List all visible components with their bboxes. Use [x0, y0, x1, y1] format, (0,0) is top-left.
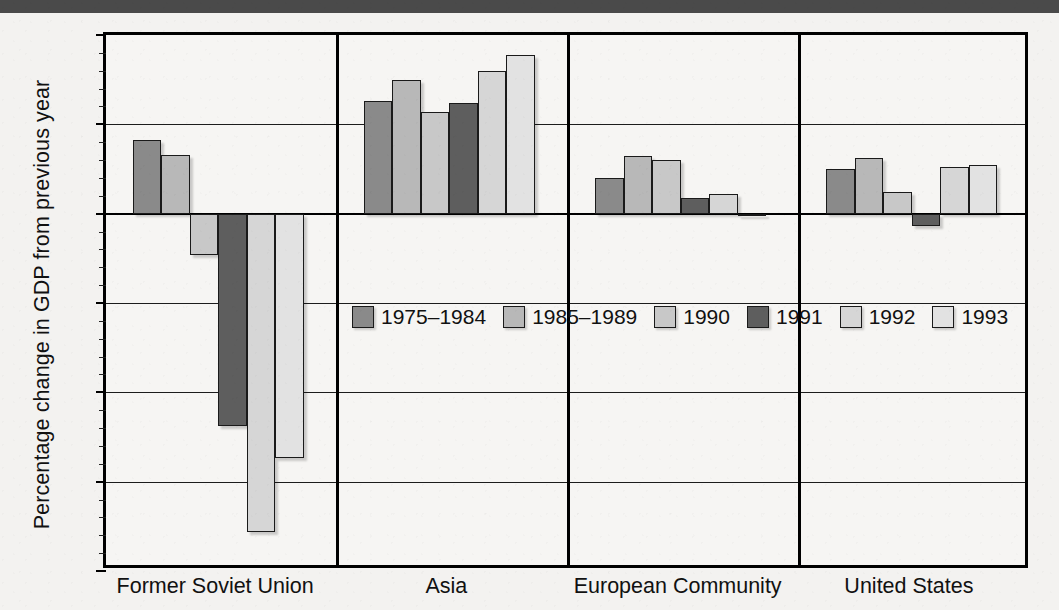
- scan-top-band: [0, 0, 1059, 13]
- y-tick-minor--7: [99, 339, 106, 340]
- legend-item[interactable]: 1991: [747, 305, 823, 329]
- bar: [709, 194, 738, 214]
- group-separator-3: [798, 35, 801, 565]
- bar: [940, 167, 969, 213]
- y-axis-label: Percentage change in GDP from previous y…: [30, 25, 55, 585]
- y-tick-minor-1: [99, 196, 106, 197]
- bar: [161, 155, 190, 214]
- group-separator-2: [567, 35, 570, 565]
- bar: [883, 192, 912, 213]
- y-tick-minor-3: [99, 160, 106, 161]
- y-tick-minor-2: [99, 178, 106, 179]
- y-tick-minor--2: [99, 249, 106, 250]
- y-tick-minor--4: [99, 285, 106, 286]
- legend-label: 1975–1984: [381, 305, 486, 329]
- y-tick-minor-7: [99, 89, 106, 90]
- group-separator-1: [336, 35, 339, 565]
- chart-legend: 1975–19841985–19891990199119921993: [352, 305, 1025, 329]
- x-category-label: Asia: [425, 574, 467, 599]
- legend-label: 1990: [683, 305, 730, 329]
- bar: [681, 198, 710, 213]
- legend-label: 1993: [961, 305, 1008, 329]
- legend-swatch-icon: [747, 306, 769, 328]
- bar: [364, 101, 393, 214]
- y-tick-major--20: [96, 570, 106, 572]
- bar: [133, 140, 162, 213]
- x-category-label: Former Soviet Union: [117, 574, 314, 599]
- legend-label: 1985–1989: [532, 305, 637, 329]
- y-tick-minor--11: [99, 410, 106, 411]
- y-tick-minor--16: [99, 500, 106, 501]
- bar: [624, 156, 653, 213]
- gridline--15: [106, 482, 1025, 483]
- gridline-5: [106, 124, 1025, 125]
- bar: [449, 103, 478, 214]
- bar: [652, 160, 681, 214]
- legend-item[interactable]: 1985–1989: [503, 305, 637, 329]
- plot-area: [103, 32, 1028, 568]
- y-tick-major--10: [96, 391, 106, 393]
- bar: [275, 214, 304, 459]
- y-tick-minor--18: [99, 535, 106, 536]
- legend-swatch-icon: [932, 306, 954, 328]
- legend-swatch-icon: [840, 306, 862, 328]
- legend-swatch-icon: [654, 306, 676, 328]
- chart-figure: Percentage change in GDP from previous y…: [0, 0, 1059, 610]
- y-tick-minor-9: [99, 53, 106, 54]
- bar: [738, 214, 767, 216]
- bar: [506, 55, 535, 214]
- y-tick-minor--17: [99, 517, 106, 518]
- y-tick-minor--3: [99, 267, 106, 268]
- bar: [595, 178, 624, 214]
- y-tick-minor-8: [99, 71, 106, 72]
- bar: [421, 112, 450, 214]
- y-tick-minor--13: [99, 446, 106, 447]
- y-tick-minor--19: [99, 553, 106, 554]
- x-category-label: European Community: [574, 574, 782, 599]
- y-tick-minor--9: [99, 374, 106, 375]
- legend-swatch-icon: [352, 306, 374, 328]
- y-tick-minor--12: [99, 428, 106, 429]
- y-tick-major--15: [96, 481, 106, 483]
- bar: [855, 158, 884, 213]
- legend-label: 1992: [869, 305, 916, 329]
- y-tick-major-5: [96, 123, 106, 125]
- bar: [218, 214, 247, 427]
- legend-item[interactable]: 1975–1984: [352, 305, 486, 329]
- y-tick-minor-6: [99, 106, 106, 107]
- bar: [912, 214, 941, 227]
- legend-label: 1991: [776, 305, 823, 329]
- x-category-label: United States: [844, 574, 973, 599]
- bar: [826, 169, 855, 214]
- y-tick-minor--1: [99, 232, 106, 233]
- bar: [392, 80, 421, 214]
- y-tick-major-0: [96, 213, 106, 215]
- bar: [969, 165, 998, 213]
- y-tick-minor--8: [99, 357, 106, 358]
- bar: [247, 214, 276, 532]
- legend-item[interactable]: 1993: [932, 305, 1008, 329]
- y-tick-minor-4: [99, 142, 106, 143]
- y-tick-major--5: [96, 302, 106, 304]
- legend-swatch-icon: [503, 306, 525, 328]
- y-tick-minor--6: [99, 321, 106, 322]
- legend-item[interactable]: 1990: [654, 305, 730, 329]
- y-tick-minor--14: [99, 464, 106, 465]
- legend-item[interactable]: 1992: [840, 305, 916, 329]
- bar: [190, 214, 219, 255]
- bar: [478, 71, 507, 214]
- y-tick-major-10: [96, 34, 106, 36]
